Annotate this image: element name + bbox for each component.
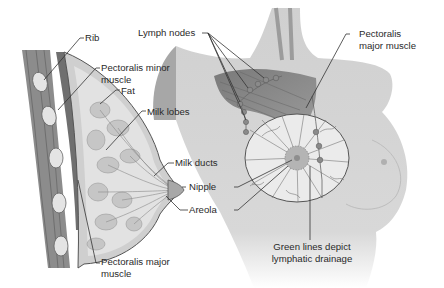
label-areola: Areola [189,204,217,215]
label-fat: Fat [121,85,135,96]
label-pectoralis-minor-line1: Pectoralis minor [101,62,170,73]
label-pectoralis-minor-line2: muscle [101,74,131,85]
caption-line2: lymphatic drainage [262,253,362,264]
label-pectoralis-major-right-line2: major muscle [359,40,416,51]
breast-anatomy-diagram: Rib Pectoralis minor muscle Fat Milk lob… [0,0,444,288]
label-nipple: Nipple [189,181,216,192]
label-pectoralis-major-left-line1: Pectoralis major [101,256,170,267]
label-milk-ducts: Milk ducts [175,157,218,168]
label-rib: Rib [85,32,99,43]
label-milk-lobes: Milk lobes [147,106,190,117]
label-lymph-nodes: Lymph nodes [138,27,195,38]
label-pectoralis-major-left-line2: muscle [101,268,131,279]
label-pectoralis-major-right-line1: Pectoralis [359,28,401,39]
caption-line1: Green lines depict [262,241,362,252]
